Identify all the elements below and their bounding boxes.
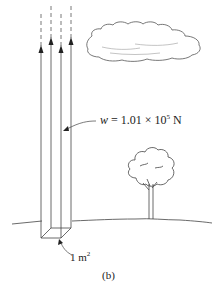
arrow-up-icon (49, 37, 54, 45)
arrow-up-icon (59, 45, 64, 53)
upward-arrows (39, 37, 74, 53)
arrow-up-icon (39, 45, 44, 53)
tree-icon (128, 148, 174, 219)
leader-arrow-icon (63, 126, 69, 131)
air-column (41, 42, 71, 238)
weight-unit: N (170, 113, 182, 127)
area-exponent: 2 (87, 250, 91, 258)
cloud-icon (87, 22, 200, 62)
cloud-shading (102, 43, 178, 55)
area-label: 1 m2 (70, 250, 90, 263)
weight-symbol: w (100, 113, 108, 127)
figure-caption: (b) (102, 269, 115, 281)
arrow-up-icon (69, 37, 74, 45)
dashed-extensions (41, 6, 71, 46)
area-value: 1 m (70, 251, 87, 263)
diagram-canvas (0, 0, 221, 289)
weight-mantissa: 1.01 × 10 (121, 113, 167, 127)
area-arrow-icon (58, 239, 63, 245)
ground-line (12, 219, 212, 224)
weight-label: w = 1.01 × 105 N (100, 113, 182, 128)
weight-equals: = (108, 113, 121, 127)
